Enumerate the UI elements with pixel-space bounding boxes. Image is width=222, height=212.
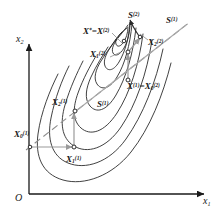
diagram-svg: [0, 0, 222, 212]
point-label-x2-1: X2(1): [52, 98, 67, 108]
node-x1-1: [72, 145, 76, 149]
node-x2-1: [73, 109, 77, 113]
contour-level-3: [62, 40, 152, 150]
leader-x1-2: [110, 52, 121, 57]
node-x2-2: [138, 35, 142, 39]
point-label-x1-1: X1(1): [66, 155, 81, 165]
direction-label-s1-mid: S(1): [97, 100, 109, 109]
node-x-star: [122, 39, 126, 43]
y-axis-label: x2: [16, 34, 24, 45]
point-label-x0-1: X0(1): [14, 130, 29, 140]
point-label-x-star: X*=X(2): [83, 27, 109, 36]
point-label-x1-eq-x0-2: X(1)=X0(2): [127, 82, 160, 92]
x-axis-label: x1: [203, 196, 211, 207]
axis-group: [29, 44, 204, 194]
point-label-x1-2: X1(2): [90, 50, 105, 60]
node-marker-group: [28, 35, 142, 149]
point-label-x2-2: X2(2): [148, 38, 163, 48]
origin-label: O: [15, 193, 22, 203]
node-x0-1: [28, 145, 32, 149]
node-x1-2: [126, 50, 130, 54]
figure-canvas: x2 x1 O X0(1) X1(1) X2(1) S(1) X(1)=X0(2…: [0, 0, 222, 212]
direction-label-s1-top: S(1): [166, 16, 178, 25]
direction-label-s2: S(2): [128, 11, 140, 20]
